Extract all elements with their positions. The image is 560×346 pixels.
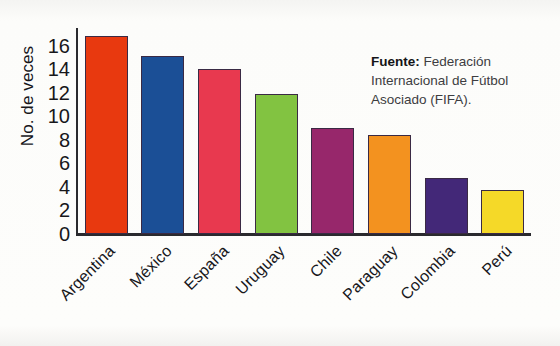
y-tick-label: 12 bbox=[40, 83, 70, 103]
y-axis-tick-labels: 0246810121416 bbox=[40, 22, 70, 240]
category-slot: Argentina bbox=[78, 238, 135, 342]
bar-slot bbox=[248, 28, 305, 234]
y-tick-label: 2 bbox=[40, 200, 70, 220]
y-tick-label: 8 bbox=[40, 130, 70, 150]
x-axis-category-labels: ArgentinaMéxicoEspañaUruguayChileParagua… bbox=[78, 238, 531, 342]
bar-per[interactable] bbox=[481, 190, 524, 234]
category-slot: Uruguay bbox=[248, 238, 305, 342]
bar-colombia[interactable] bbox=[425, 178, 468, 235]
bar-slot bbox=[78, 28, 135, 234]
bar-slot bbox=[135, 28, 192, 234]
y-tick-label: 4 bbox=[40, 177, 70, 197]
x-tick-label: Chile bbox=[306, 242, 345, 281]
x-tick-label: Argentina bbox=[57, 242, 119, 304]
bar-espaa[interactable] bbox=[198, 69, 241, 234]
bar-paraguay[interactable] bbox=[368, 135, 411, 234]
y-tick-label: 16 bbox=[40, 36, 70, 56]
bar-argentina[interactable] bbox=[85, 36, 128, 234]
source-note-label: Fuente: bbox=[371, 54, 420, 69]
y-tick-label: 10 bbox=[40, 106, 70, 126]
bar-mxico[interactable] bbox=[141, 56, 184, 234]
category-slot: México bbox=[135, 238, 192, 342]
category-slot: Colombia bbox=[418, 238, 475, 342]
bar-uruguay[interactable] bbox=[255, 94, 298, 234]
x-tick-label: México bbox=[126, 242, 175, 291]
source-note: Fuente: Federación Internacional de Fútb… bbox=[371, 52, 549, 109]
y-tick-label: 6 bbox=[40, 153, 70, 173]
bar-slot bbox=[191, 28, 248, 234]
y-tick-label: 14 bbox=[40, 59, 70, 79]
category-slot: Perú bbox=[474, 238, 531, 342]
y-tick-label: 0 bbox=[40, 224, 70, 244]
x-tick-label: Perú bbox=[478, 242, 515, 279]
y-axis-title: No. de veces bbox=[18, 6, 38, 186]
bar-chile[interactable] bbox=[311, 128, 354, 234]
bar-slot bbox=[305, 28, 362, 234]
bar-chart-figure: No. de veces 0246810121416 ArgentinaMéxi… bbox=[0, 0, 560, 346]
